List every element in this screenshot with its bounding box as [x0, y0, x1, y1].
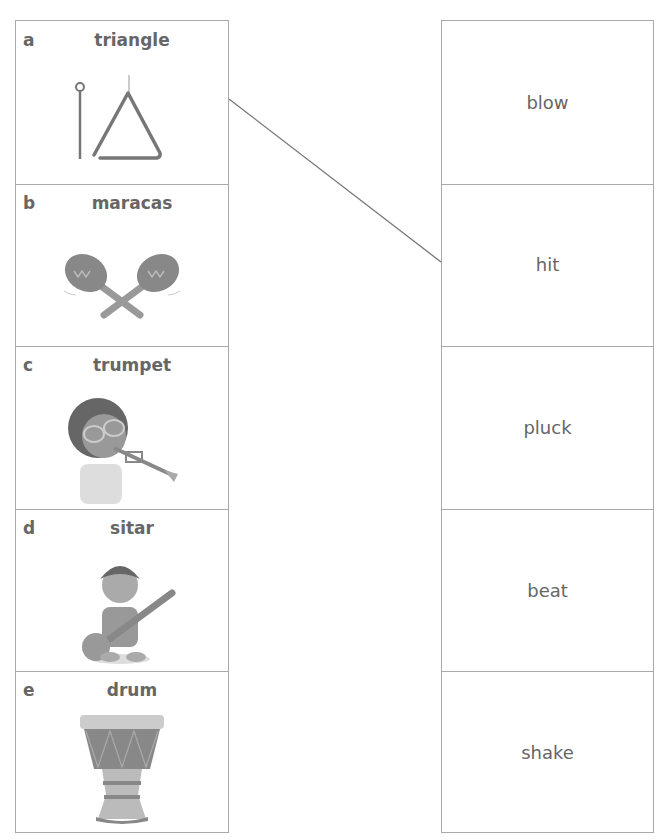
action-cell-pluck[interactable]: pluck [442, 346, 653, 509]
instrument-name: maracas [16, 193, 228, 213]
action-label: hit [442, 184, 653, 347]
instrument-cell-sitar[interactable]: d sitar [16, 509, 228, 672]
child-playing-sitar-icon [16, 549, 228, 667]
child-playing-trumpet-icon [16, 386, 228, 504]
action-cell-shake[interactable]: shake [442, 671, 653, 834]
instrument-cell-maracas[interactable]: b maracas [16, 184, 228, 347]
action-label: blow [442, 21, 653, 184]
triangle-icon [16, 61, 228, 179]
action-label: shake [442, 671, 653, 834]
drum-icon [16, 711, 228, 829]
maracas-icon [16, 224, 228, 342]
instrument-name: sitar [16, 518, 228, 538]
instrument-name: trumpet [16, 355, 228, 375]
action-label: pluck [442, 346, 653, 509]
action-label: beat [442, 509, 653, 672]
instrument-cell-drum[interactable]: e drum [16, 671, 228, 834]
instrument-cell-triangle[interactable]: a triangle [16, 21, 228, 184]
instrument-name: drum [16, 680, 228, 700]
action-cell-hit[interactable]: hit [442, 184, 653, 347]
action-column: blow hit pluck beat shake [441, 20, 654, 833]
instrument-column: a triangle b maracas [15, 20, 229, 833]
action-cell-blow[interactable]: blow [442, 21, 653, 184]
action-cell-beat[interactable]: beat [442, 509, 653, 672]
instrument-name: triangle [16, 30, 228, 50]
instrument-cell-trumpet[interactable]: c trumpet [16, 346, 228, 509]
